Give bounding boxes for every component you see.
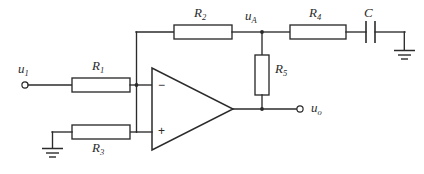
opamp-inverting-input-sign: − [158,79,165,91]
label-uo: uo [311,101,322,114]
resistor-R4-body [290,25,346,39]
circuit-diagram-canvas: u1 R1 R2 uA R4 C R5 R3 uo − + [0,0,424,174]
resistor-R1-body [72,78,130,92]
input-terminal-u1-dot[interactable] [22,82,28,88]
junction-dot-inverting-node [135,83,139,87]
node-label-uA: uA [245,9,257,22]
label-R1: R1 [92,59,104,72]
label-u1: u1 [18,62,29,75]
label-R3: R3 [92,141,104,154]
resistor-R2-body [174,25,232,39]
schematic-svg [0,0,424,174]
label-C: C [364,6,373,19]
label-R2: R2 [194,6,206,19]
resistor-R3-body [72,125,130,139]
opamp-noninverting-input-sign: + [158,125,165,137]
output-terminal-uo-dot[interactable] [297,106,303,112]
label-R4: R4 [309,6,321,19]
label-R5: R5 [275,62,287,75]
resistor-R5-body [255,55,269,95]
